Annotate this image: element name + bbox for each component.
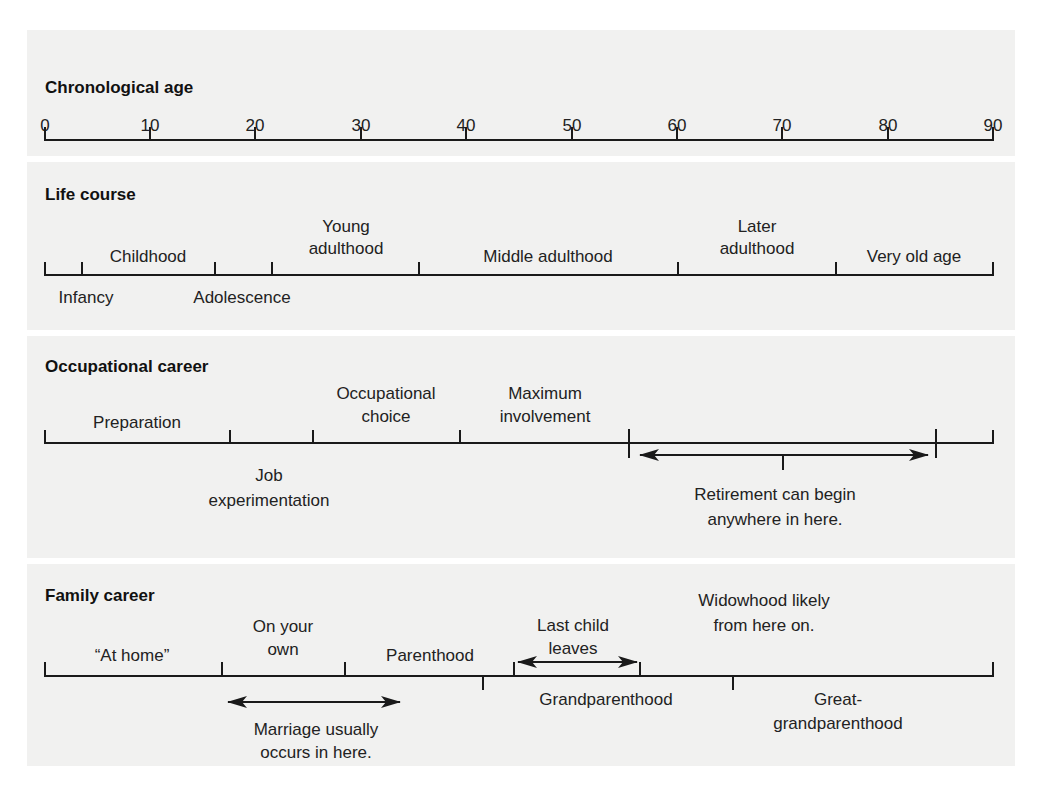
widowhood-note-line1: Widowhood likely [698,591,830,610]
section-title: Family career [45,586,155,605]
marriage-note-line1: Marriage usually [254,720,379,739]
last-child-leaves-line2: leaves [548,639,597,658]
section-title: Occupational career [45,357,209,376]
segment-label-later-adulthood-line1: Later [738,217,777,236]
retirement-note-line2: anywhere in here. [707,510,842,529]
segment-label-parenthood: Parenthood [386,646,474,665]
age-tick-labels: 0 10 20 30 40 50 60 70 80 90 [40,116,1002,135]
segment-label-job-experimentation-line1: Job [255,466,282,485]
segment-label-occupational-choice-line1: Occupational [336,384,435,403]
widowhood-note-line2: from here on. [713,616,814,635]
segment-label-adolescence: Adolescence [193,288,290,307]
segment-label-childhood: Childhood [110,247,187,266]
last-child-leaves-line1: Last child [537,616,609,635]
life-course-track: Life course Childhood Young adulthood Mi… [45,185,993,307]
segment-label-middle-adulthood: Middle adulthood [483,247,612,266]
segment-label-infancy: Infancy [59,288,114,307]
occupational-axis-line [45,429,993,470]
family-axis-line [45,662,993,690]
segment-label-grandparenthood: Grandparenthood [539,690,672,709]
chronological-age-track: Chronological age 0 10 20 30 40 50 60 70… [40,78,1002,140]
segment-label-great-grandparenthood-line2: grandparenthood [773,714,903,733]
segment-label-job-experimentation-line2: experimentation [209,491,330,510]
segment-label-at-home: “At home” [95,646,170,665]
age-axis-line [45,127,993,140]
occupational-career-track: Occupational career Preparation Occupati… [45,357,993,529]
life-timeline-diagram: Chronological age 0 10 20 30 40 50 60 70… [0,0,1039,788]
section-title: Chronological age [45,78,193,97]
segment-label-young-adulthood-line2: adulthood [309,239,384,258]
segment-label-occupational-choice-line2: choice [361,407,410,426]
segment-label-on-your-own-line2: own [267,640,298,659]
segment-label-maximum-involvement-line2: involvement [500,407,591,426]
segment-label-on-your-own-line1: On your [253,617,314,636]
family-career-track: Family career “At home” On your own Pare… [45,586,993,762]
segment-label-young-adulthood-line1: Young [322,217,370,236]
segment-label-very-old-age: Very old age [867,247,962,266]
segment-label-later-adulthood-line2: adulthood [720,239,795,258]
section-title: Life course [45,185,136,204]
marriage-note-line2: occurs in here. [260,743,372,762]
retirement-note-line1: Retirement can begin [694,485,856,504]
segment-label-maximum-involvement-line1: Maximum [508,384,582,403]
segment-label-preparation: Preparation [93,413,181,432]
segment-label-great-grandparenthood-line1: Great- [814,690,862,709]
